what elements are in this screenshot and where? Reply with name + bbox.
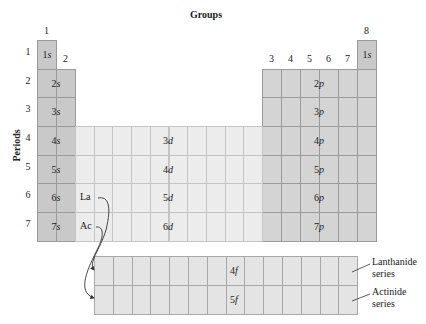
connector-arrows [0, 0, 426, 324]
la-arrow [92, 198, 108, 270]
lanthanide-leader [352, 264, 370, 272]
actinide-leader [352, 294, 370, 301]
ac-arrow [85, 227, 103, 298]
